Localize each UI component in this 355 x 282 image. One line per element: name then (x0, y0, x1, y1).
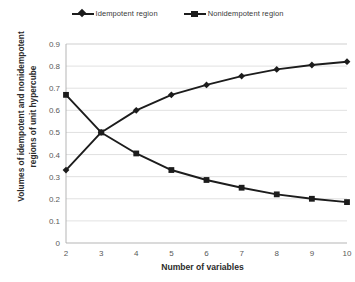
svg-text:0: 0 (56, 239, 61, 248)
svg-text:0.3: 0.3 (49, 173, 61, 182)
svg-text:3: 3 (99, 249, 104, 258)
x-axis-tick-labels: 2345678910 (64, 249, 352, 258)
svg-text:10: 10 (343, 249, 352, 258)
axis-lines (66, 44, 347, 243)
svg-text:0.7: 0.7 (49, 84, 61, 93)
svg-text:0.5: 0.5 (49, 128, 61, 137)
svg-text:0.8: 0.8 (49, 62, 61, 71)
svg-text:4: 4 (134, 249, 139, 258)
svg-text:0.1: 0.1 (49, 217, 61, 226)
svg-text:2: 2 (64, 249, 69, 258)
chart-container: Idempotent region Nonidempotent region V… (0, 0, 355, 282)
svg-text:0.9: 0.9 (49, 40, 61, 49)
svg-text:0.2: 0.2 (49, 195, 61, 204)
grid-lines (66, 44, 347, 221)
svg-text:9: 9 (310, 249, 315, 258)
series-markers (63, 58, 351, 205)
y-axis-tick-labels: 00.10.20.30.40.50.60.70.80.9 (49, 40, 61, 248)
plot-area: 00.10.20.30.40.50.60.70.80.9 2345678910 (0, 0, 355, 282)
svg-text:6: 6 (204, 249, 209, 258)
svg-text:0.4: 0.4 (49, 151, 61, 160)
svg-text:5: 5 (169, 249, 174, 258)
svg-text:0.6: 0.6 (49, 106, 61, 115)
svg-text:7: 7 (239, 249, 244, 258)
svg-text:8: 8 (275, 249, 280, 258)
